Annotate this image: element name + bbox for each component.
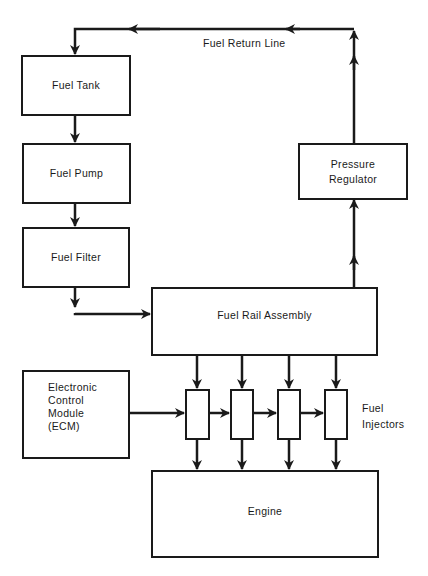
fuel-injector-2 — [230, 389, 254, 440]
ecm-line3: Module — [48, 407, 84, 420]
engine-label: Engine — [248, 504, 283, 519]
fuel-filter-box: Fuel Filter — [22, 227, 130, 288]
fuel-pump-box: Fuel Pump — [22, 143, 131, 204]
fuel-injectors-label: Fuel Injectors — [362, 400, 404, 432]
pressure-regulator-line2: Regulator — [329, 172, 377, 187]
ecm-line2: Control — [48, 394, 84, 407]
engine-box: Engine — [151, 470, 379, 558]
fuel-injector-4 — [324, 389, 348, 440]
fuel-injector-3 — [277, 389, 301, 440]
arrow-filter-to-rail — [75, 313, 150, 314]
fuel-injector-1 — [185, 389, 210, 440]
fuel-rail-assembly-label: Fuel Rail Assembly — [217, 308, 312, 323]
ecm-box: Electronic Control Module (ECM) — [22, 370, 130, 459]
fuel-filter-label: Fuel Filter — [51, 250, 101, 265]
fuel-tank-box: Fuel Tank — [21, 55, 131, 116]
fuel-return-line-label: Fuel Return Line — [203, 35, 285, 51]
fuel-tank-label: Fuel Tank — [52, 78, 100, 93]
fuel-rail-assembly-box: Fuel Rail Assembly — [151, 287, 378, 356]
pressure-regulator-box: Pressure Regulator — [298, 143, 408, 200]
fuel-injectors-line1: Fuel — [362, 400, 404, 416]
ecm-line4: (ECM) — [48, 420, 80, 433]
fuel-pump-label: Fuel Pump — [50, 166, 103, 181]
pressure-regulator-line1: Pressure — [331, 157, 375, 172]
ecm-line1: Electronic — [48, 381, 97, 394]
fuel-injectors-line2: Injectors — [362, 416, 404, 432]
